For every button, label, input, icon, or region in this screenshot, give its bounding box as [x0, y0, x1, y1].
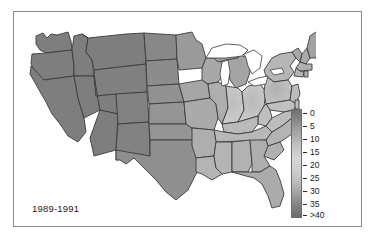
state-missouri: [184, 98, 218, 130]
tick-dash-icon: [303, 113, 307, 114]
state-arizona: [90, 110, 118, 156]
lake-erie-icon: [248, 76, 268, 86]
lake-michigan-icon: [220, 60, 230, 86]
period-label: 1989-1991: [32, 203, 79, 214]
us-choropleth-map: [16, 14, 316, 224]
state-south-dakota: [146, 59, 179, 86]
state-oklahoma: [149, 124, 194, 140]
state-delaware: [295, 100, 299, 109]
colorbar-gradient: [291, 109, 302, 218]
tick-dash-icon: [303, 191, 307, 192]
region-west: [30, 32, 150, 160]
state-colorado: [116, 92, 149, 124]
tick-dash-icon: [303, 152, 307, 153]
map-plot-area: 1989-1991 0 5 10 15 20 25 30 35 >40: [14, 12, 361, 226]
state-rhode-island: [304, 71, 308, 77]
tick-dash-icon: [303, 178, 307, 179]
state-arkansas: [192, 128, 216, 158]
state-nebraska: [147, 84, 184, 104]
lake-superior-icon: [206, 44, 248, 58]
state-mississippi: [214, 142, 232, 174]
state-florida: [232, 166, 284, 208]
tick-dash-icon: [303, 126, 307, 127]
state-kansas: [149, 102, 186, 124]
state-wyoming: [94, 64, 147, 96]
state-north-dakota: [144, 33, 177, 61]
state-washington: [36, 32, 72, 53]
figure-frame: 1989-1991 0 5 10 15 20 25 30 35 >40: [13, 11, 362, 227]
state-minnesota: [176, 32, 206, 70]
state-alabama: [232, 140, 252, 172]
tick-dash-icon: [303, 165, 307, 166]
tick-dash-icon: [303, 139, 307, 140]
colorbar-legend: 0 5 10 15 20 25 30 35 >40: [291, 109, 335, 218]
state-new-york: [264, 52, 296, 82]
tick-dash-icon: [303, 215, 307, 216]
tick-dash-icon: [303, 204, 307, 205]
